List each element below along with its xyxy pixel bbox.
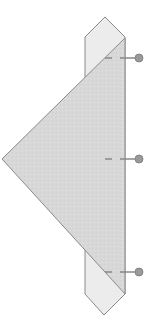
marker-dot-icon xyxy=(135,268,143,276)
fold-diagram xyxy=(0,0,152,336)
marker-dot-icon xyxy=(135,54,143,62)
triangle-flap xyxy=(2,38,125,294)
marker-dot-icon xyxy=(135,155,143,163)
